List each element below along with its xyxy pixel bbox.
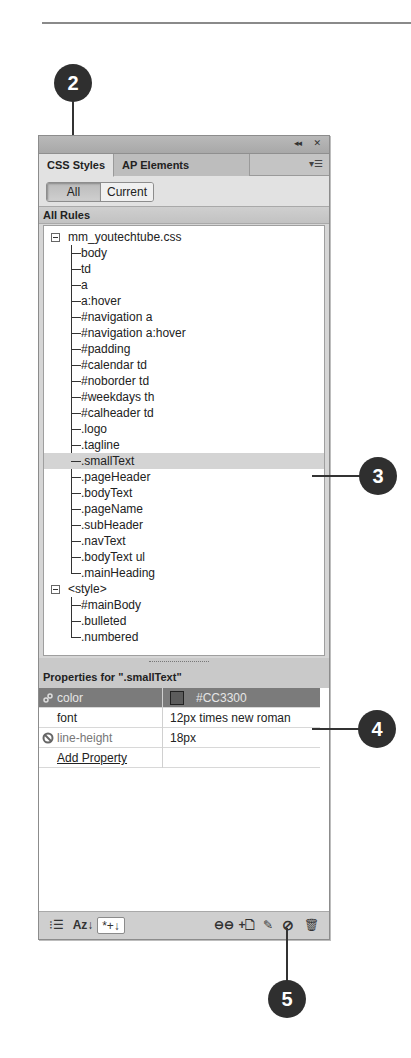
properties-header: Properties for ".smallText" — [39, 666, 329, 688]
tree-group-style-tag[interactable]: <style> — [44, 581, 324, 597]
tree-group-label: mm_youtechtube.css — [68, 229, 181, 245]
properties-grid: color #CC3300 font 12px times new roman … — [39, 688, 329, 913]
panel-splitter[interactable] — [39, 658, 329, 666]
tab-css-styles[interactable]: CSS Styles — [39, 154, 114, 177]
tree-item-selected[interactable]: .smallText — [44, 453, 324, 469]
property-value[interactable]: 18px — [164, 728, 320, 748]
current-button[interactable]: Current — [101, 183, 153, 201]
attach-style-sheet-icon[interactable]: ⊖⊖ — [214, 917, 234, 934]
property-row-line-height[interactable]: line-height 18px — [39, 728, 320, 748]
property-name: line-height — [39, 728, 163, 748]
tree-item[interactable]: .mainHeading — [44, 565, 324, 581]
panel-tabs: CSS Styles AP Elements ▾☰ — [39, 154, 329, 176]
tree-item[interactable]: #mainBody — [44, 597, 324, 613]
add-property-cell: Add Property — [39, 748, 163, 768]
tree-item[interactable]: a — [44, 277, 324, 293]
tree-item[interactable]: .pageName — [44, 501, 324, 517]
new-css-rule-icon[interactable]: +🗋 — [237, 917, 257, 934]
delete-rule-icon[interactable]: 🗑 — [302, 917, 320, 934]
property-row-add[interactable]: Add Property — [39, 748, 320, 768]
callout-5: 5 — [268, 980, 306, 1018]
tree-item[interactable]: #navigation a — [44, 309, 324, 325]
tree-item[interactable]: #noborder td — [44, 373, 324, 389]
collapse-tree-icon[interactable] — [51, 233, 60, 242]
property-name: font — [39, 708, 163, 728]
tree-item[interactable]: #calheader td — [44, 405, 324, 421]
property-value[interactable]: 12px times new roman — [164, 708, 320, 728]
rules-tree[interactable]: mm_youtechtube.css body td a a:hover #na… — [43, 225, 325, 656]
callout-2: 2 — [54, 64, 92, 102]
color-swatch[interactable] — [170, 691, 184, 705]
property-row-color[interactable]: color #CC3300 — [39, 688, 320, 708]
close-icon[interactable]: ✕ — [313, 138, 321, 148]
tree-item[interactable]: .bodyText ul — [44, 549, 324, 565]
all-rules-header: All Rules — [39, 206, 329, 224]
callout-5-leader — [286, 928, 288, 983]
panel-titlebar: ◂◂ ✕ — [39, 136, 329, 154]
all-button[interactable]: All — [47, 183, 101, 201]
callout-4: 4 — [358, 710, 396, 748]
property-value[interactable]: #CC3300 — [164, 688, 320, 708]
add-property-link[interactable]: Add Property — [57, 751, 127, 765]
tree-item[interactable]: .pageHeader — [44, 469, 324, 485]
show-category-view-icon[interactable]: ⁝☰ — [46, 917, 66, 934]
color-value: #CC3300 — [196, 691, 247, 705]
tab-ap-elements[interactable]: AP Elements — [114, 154, 250, 176]
tree-item[interactable]: .bodyText — [44, 485, 324, 501]
property-row-font[interactable]: font 12px times new roman — [39, 708, 320, 728]
callout-4-leader — [312, 728, 360, 730]
tree-item[interactable]: .bulleted — [44, 613, 324, 629]
collapse-tree-icon[interactable] — [51, 585, 60, 594]
tree-item[interactable]: .numbered — [44, 629, 324, 645]
tree-item[interactable]: a:hover — [44, 293, 324, 309]
tree-item[interactable]: .logo — [44, 421, 324, 437]
tree-item[interactable]: td — [44, 261, 324, 277]
show-alphabetical-view-icon[interactable]: Az↓ — [71, 917, 95, 934]
tree-item[interactable]: .navText — [44, 533, 324, 549]
edit-rule-icon[interactable]: ✎ — [260, 917, 276, 934]
panel-menu-icon[interactable]: ▾☰ — [309, 158, 323, 169]
page-top-rule — [42, 22, 411, 24]
disable-property-icon[interactable]: ⊘ — [280, 917, 296, 934]
empty-value-cell — [164, 748, 320, 768]
tree-item[interactable]: .tagline — [44, 437, 324, 453]
tree-item[interactable]: #weekdays th — [44, 389, 324, 405]
css-styles-panel: ◂◂ ✕ CSS Styles AP Elements ▾☰ All Curre… — [38, 135, 330, 940]
tree-item[interactable]: #calendar td — [44, 357, 324, 373]
view-toggle-row: All Current — [39, 176, 329, 206]
callout-3-leader — [312, 475, 360, 477]
view-toggle: All Current — [46, 182, 154, 202]
tree-item[interactable]: body — [44, 245, 324, 261]
callout-3: 3 — [359, 457, 397, 495]
tree-item[interactable]: #navigation a:hover — [44, 325, 324, 341]
tree-group-stylesheet[interactable]: mm_youtechtube.css — [44, 229, 324, 245]
tree-group-label: <style> — [68, 581, 107, 597]
show-set-properties-icon[interactable]: *+↓ — [97, 917, 125, 934]
property-name: color — [39, 688, 163, 708]
collapse-icon[interactable]: ◂◂ — [294, 138, 301, 148]
tree-item[interactable]: .subHeader — [44, 517, 324, 533]
tree-item[interactable]: #padding — [44, 341, 324, 357]
